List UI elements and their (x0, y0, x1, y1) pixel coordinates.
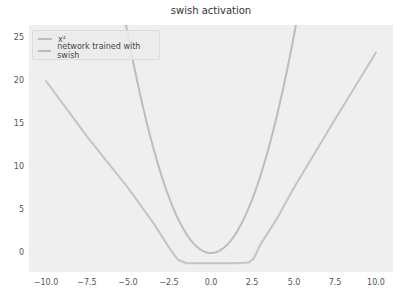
y-tick-label: 20 (2, 76, 24, 85)
x-tick-label: 10.0 (356, 278, 396, 287)
y-tick-label: 0 (2, 248, 24, 257)
legend: x² network trained with swish (32, 30, 160, 60)
x-tick-label: 2.5 (232, 278, 272, 287)
legend-item-network-swish: network trained with swish (38, 45, 159, 57)
series-network-swish-line (46, 53, 376, 264)
x-tick-label: −5.0 (108, 278, 148, 287)
legend-label: network trained with swish (57, 42, 159, 60)
x-tick-label: 5.0 (274, 278, 314, 287)
y-tick-label: 15 (2, 119, 24, 128)
x-tick-label: −7.5 (67, 278, 107, 287)
y-tick-label: 25 (2, 33, 24, 42)
x-tick-label: −2.5 (149, 278, 189, 287)
legend-swatch-x-squared (38, 38, 52, 40)
x-tick-label: 0.0 (191, 278, 231, 287)
y-tick-label: 5 (2, 205, 24, 214)
y-tick-label: 10 (2, 162, 24, 171)
legend-swatch-network-swish (38, 50, 51, 52)
x-tick-label: 7.5 (315, 278, 355, 287)
x-tick-label: −10.0 (26, 278, 66, 287)
